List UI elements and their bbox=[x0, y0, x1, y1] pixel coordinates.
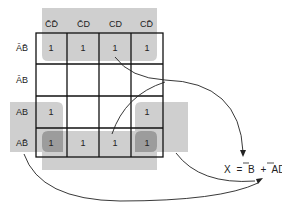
boolean-equation: X = B + AD bbox=[224, 163, 282, 175]
col-header-2: C̄D bbox=[77, 19, 90, 29]
row-header-4: AB̄ bbox=[16, 138, 28, 148]
cell-r1c1: 1 bbox=[48, 43, 53, 53]
row-header-3: AB bbox=[16, 107, 28, 117]
cell-r4c3: 1 bbox=[112, 138, 117, 148]
col-header-3: CD bbox=[109, 19, 122, 29]
svg-text:X = B +: X = B + AD bbox=[224, 164, 282, 175]
eq-lhs: X bbox=[224, 164, 231, 175]
cell-r1c3: 1 bbox=[112, 43, 117, 53]
col-header-1: C̄D̄ bbox=[45, 19, 58, 29]
cell-r3c1: 1 bbox=[48, 107, 53, 117]
cell-r4c1: 1 bbox=[48, 138, 53, 148]
cell-r4c2: 1 bbox=[80, 138, 85, 148]
eq-term2-d: D bbox=[278, 164, 282, 175]
eq-equals: = bbox=[236, 164, 242, 175]
cell-r3c4: 1 bbox=[144, 107, 149, 117]
bottom-wrap-shading bbox=[42, 157, 157, 170]
cell-r1c4: 1 bbox=[144, 43, 149, 53]
karnaugh-map-diagram: C̄D̄ C̄D CD CD̄ ĀB̄ ĀB AB AB̄ 1 1 1 1 1 … bbox=[0, 0, 282, 211]
eq-plus: + bbox=[261, 164, 267, 175]
row-header-1: ĀB̄ bbox=[16, 43, 28, 53]
right-wrap-shading bbox=[163, 102, 188, 152]
cell-r1c2: 1 bbox=[80, 43, 85, 53]
eq-term1: B bbox=[248, 164, 255, 175]
row-header-2: ĀB bbox=[16, 75, 28, 85]
cell-r4c4: 1 bbox=[144, 138, 149, 148]
col-header-4: CD̄ bbox=[140, 19, 153, 29]
arrowhead-down-icon bbox=[240, 150, 246, 157]
